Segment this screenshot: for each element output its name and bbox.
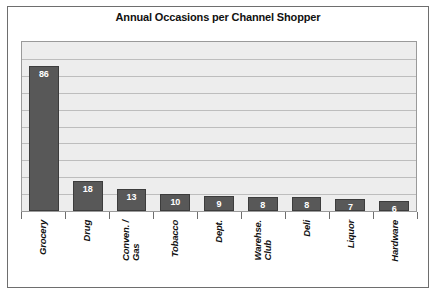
x-axis-tick	[197, 212, 198, 219]
x-axis-label-slot: Warehse.Club	[241, 220, 285, 284]
bar-slot: 86	[22, 42, 66, 211]
bar-value-label: 7	[336, 202, 364, 212]
bar[interactable]: 18	[73, 181, 103, 211]
x-axis-label: Hardware	[390, 220, 400, 262]
bar-value-label: 8	[249, 200, 277, 210]
x-axis-tick	[21, 212, 22, 219]
bar[interactable]: 10	[160, 194, 190, 211]
bar[interactable]: 7	[335, 199, 365, 211]
bar-value-label: 18	[74, 184, 102, 194]
x-axis-label-slot: Drug	[65, 220, 109, 284]
x-axis-label-slot: Conven. /Gas	[109, 220, 153, 284]
bar-slot: 18	[66, 42, 110, 211]
bar-value-label: 10	[161, 197, 189, 207]
x-axis-label-slot: Hardware	[373, 220, 417, 284]
bar-slot: 10	[153, 42, 197, 211]
x-axis-label-slot: Grocery	[21, 220, 65, 284]
x-axis-label: Deli	[302, 220, 312, 237]
bar-slot: 6	[372, 42, 416, 211]
x-axis-label: Drug	[82, 220, 92, 241]
x-axis-tick	[109, 212, 110, 219]
x-axis-ticks	[21, 212, 417, 219]
x-axis-label: Dept.	[214, 220, 224, 243]
bar-slot: 8	[285, 42, 329, 211]
bar[interactable]: 6	[379, 201, 409, 211]
x-axis-label-slot: Dept.	[197, 220, 241, 284]
x-axis-label-line: Gas	[131, 220, 141, 261]
x-axis-label: Warehse.Club	[253, 220, 273, 260]
bar[interactable]: 8	[248, 197, 278, 211]
bar[interactable]: 13	[117, 189, 147, 211]
bar-value-label: 13	[118, 192, 146, 202]
x-axis-label: Tobacco	[170, 220, 180, 257]
x-axis-label-line: Club	[263, 220, 273, 260]
bar[interactable]: 9	[204, 196, 234, 211]
x-axis-tick	[65, 212, 66, 219]
x-axis-tick	[285, 212, 286, 219]
bar-series: 8618131098876	[22, 42, 416, 211]
x-axis-category-labels: GroceryDrugConven. /GasTobaccoDept.Wareh…	[21, 220, 417, 284]
x-axis-label-line: Tobacco	[169, 220, 180, 257]
x-axis-tick	[329, 212, 330, 219]
x-axis-label-slot: Deli	[285, 220, 329, 284]
bar-slot: 7	[328, 42, 372, 211]
bar-value-label: 86	[30, 69, 58, 79]
bar[interactable]: 86	[29, 66, 59, 211]
x-axis-label: Conven. /Gas	[121, 220, 141, 261]
x-axis-label-slot: Tobacco	[153, 220, 197, 284]
bar-slot: 13	[110, 42, 154, 211]
x-axis-label-line: Hardware	[389, 220, 400, 262]
bar-value-label: 9	[205, 199, 233, 209]
x-axis-tick	[153, 212, 154, 219]
x-axis-tick	[241, 212, 242, 219]
x-axis-label: Grocery	[38, 220, 48, 255]
bar-slot: 8	[241, 42, 285, 211]
bar[interactable]: 8	[292, 197, 322, 211]
x-axis-label: Liquor	[346, 220, 356, 248]
chart-figure: Annual Occasions per Channel Shopper 861…	[0, 0, 436, 295]
x-axis-tick	[373, 212, 374, 219]
x-axis-label-line: Dept.	[213, 220, 224, 243]
x-axis-label-line: Grocery	[37, 220, 48, 255]
plot-area: 8618131098876	[21, 41, 417, 212]
x-axis-label-line: Drug	[81, 220, 92, 241]
bar-value-label: 8	[293, 200, 321, 210]
bar-slot: 9	[197, 42, 241, 211]
x-axis-tick	[417, 212, 418, 219]
chart-title: Annual Occasions per Channel Shopper	[8, 11, 428, 23]
x-axis-label-line: Deli	[301, 220, 312, 237]
x-axis-label-line: Liquor	[345, 220, 356, 248]
x-axis-label-slot: Liquor	[329, 220, 373, 284]
